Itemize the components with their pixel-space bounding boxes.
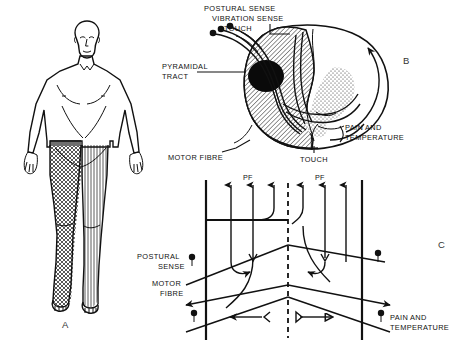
label-c-pain-and: PAIN AND <box>390 313 427 322</box>
label-pyramidal-tract-line2: TRACT <box>162 72 189 81</box>
ascending-arrows-right <box>303 185 346 196</box>
hand-left <box>24 152 37 174</box>
panel-c-schematic: PF PF POSTURAL SENSE MOTOR FIBRE PAIN AN… <box>137 173 449 340</box>
ascending-arrows-left <box>231 185 274 196</box>
label-pf-right: PF <box>315 173 325 182</box>
hand-left-fingers <box>25 162 33 172</box>
panel-c-letter: C <box>438 239 445 250</box>
tract-left-inner <box>206 196 274 220</box>
label-pf-left: PF <box>243 173 253 182</box>
motor-descend-left <box>226 258 253 308</box>
label-c-fibre: FIBRE <box>160 289 184 298</box>
label-temperature: TEMPERATURE <box>345 133 404 142</box>
panel-a-body-figure: A <box>24 21 143 330</box>
eye-right <box>89 37 94 38</box>
clavicle-notch <box>80 64 94 70</box>
label-pain-and: PAIN AND <box>345 123 382 132</box>
mouth <box>83 51 91 52</box>
label-motor-fibre: MOTOR FIBRE <box>168 153 223 162</box>
eye-left <box>80 37 85 38</box>
postural-afferent-left <box>186 245 288 285</box>
label-touch-top: TOUCH <box>224 24 252 33</box>
label-postural-sense: POSTURAL SENSE <box>204 4 276 13</box>
panel-a-letter: A <box>62 319 69 330</box>
label-c-motor: MOTOR <box>152 279 181 288</box>
label-pyramidal-tract-line1: PYRAMIDAL <box>162 62 208 71</box>
label-touch-bottom: TOUCH <box>300 155 328 164</box>
ribcage-contour <box>62 106 83 138</box>
label-c-temperature: TEMPERATURE <box>390 323 449 332</box>
tract-right-outer <box>292 196 303 224</box>
right-leg-vertical-region <box>82 145 108 307</box>
panel-b-cord-section: POSTURAL SENSE VIBRATION SENSE TOUCH PYR… <box>162 4 410 164</box>
crossing-halfarrow-left <box>264 312 270 322</box>
pectoral-right <box>87 85 110 104</box>
crossing-arrowhead-right <box>296 312 302 322</box>
pectoral-left <box>57 85 80 104</box>
hand-right <box>130 152 143 174</box>
figure-root: A <box>0 0 453 345</box>
abdomen-contour <box>85 106 106 138</box>
nose <box>86 39 89 46</box>
postural-afferent-right <box>288 245 385 262</box>
label-vibration-sense: VIBRATION SENSE <box>212 14 284 23</box>
postural-to-column-right <box>308 262 325 274</box>
hand-right-fingers <box>134 162 142 172</box>
torso-outline <box>28 56 139 153</box>
figure-canvas: A <box>0 0 453 345</box>
label-c-postural: POSTURAL <box>137 252 180 261</box>
panel-b-letter: B <box>403 55 410 66</box>
label-c-sense: SENSE <box>158 262 185 271</box>
